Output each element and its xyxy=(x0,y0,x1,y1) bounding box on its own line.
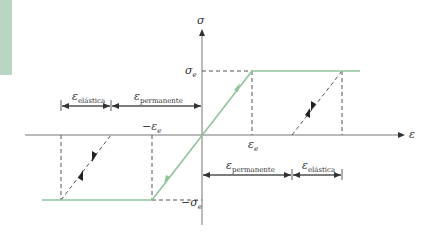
x-axis-label: ε xyxy=(409,128,415,141)
sigma-e-label: σe xyxy=(185,64,197,79)
left-elastic-unload xyxy=(61,135,111,200)
x-axis-arrow-icon xyxy=(398,132,405,138)
stress-strain-diagram: σ ε σe −σe εe −εe εelástica εpermanente … xyxy=(0,0,427,234)
neg-eps-e-label: −εe xyxy=(142,120,161,135)
right-arrow-up-icon xyxy=(305,108,310,118)
bottom-permanent-strain-label: εpermanente xyxy=(226,159,275,174)
y-axis-label: σ xyxy=(197,14,205,27)
curve-arrow-down-icon xyxy=(164,175,170,184)
top-permanent-strain-label: εpermanente xyxy=(134,90,183,105)
axes xyxy=(25,29,405,225)
eps-e-label: εe xyxy=(248,138,258,153)
left-arrow-up-icon xyxy=(78,170,83,181)
top-elastic-strain-label: εelástica xyxy=(72,90,105,105)
neg-sigma-e-label: −σe xyxy=(181,196,202,211)
y-axis-arrow-icon xyxy=(199,29,205,36)
left-arrow-down-icon xyxy=(92,151,97,162)
right-elastic-unload xyxy=(292,71,342,135)
bottom-elastic-strain-label: εelástica xyxy=(302,159,335,174)
